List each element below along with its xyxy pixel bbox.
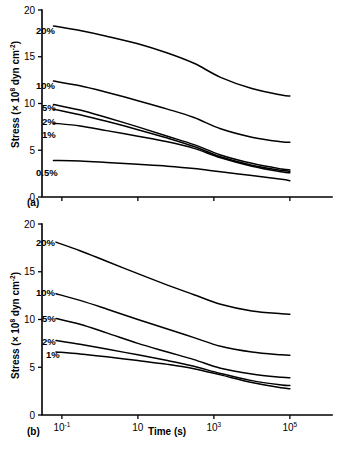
series-curve-5: [56, 319, 290, 378]
panel-a-curve-label-2: 2%: [42, 117, 56, 127]
panel-a-curve-label-5: 5%: [42, 103, 56, 113]
series-curve-2: [56, 341, 290, 386]
panel-a-y-axis-title-mid: dyn cm: [10, 50, 21, 88]
y-tick-label: 20: [24, 219, 36, 230]
panel-b-tag: (b): [27, 427, 40, 437]
panel-a-tag: (a): [27, 198, 39, 208]
panel-a: 05101520 Stress (× 108 dyn cm-2) 20% 10%…: [0, 0, 337, 215]
panel-a-curve-label-0-5: 0.5%: [36, 168, 58, 178]
panel-b-y-axis-title-prefix: Stress (× 10: [10, 323, 21, 379]
panel-b-curve-label-1: 1%: [46, 350, 60, 360]
panel-b-x-axis-title: Time (s): [148, 427, 186, 437]
y-tick-label: 10: [24, 314, 36, 325]
panel-b: 0510152010-110103105 Stress (× 108 dyn c…: [0, 214, 337, 439]
series-curve-20: [53, 26, 289, 96]
panel-b-y-axis-title-exp1: 8: [9, 319, 16, 323]
series-curve-1: [56, 352, 290, 389]
x-tick-label: 105: [282, 421, 297, 433]
panel-a-curve-label-1: 1%: [42, 130, 56, 140]
y-tick-label: 15: [24, 51, 36, 62]
axis-lines: [42, 10, 332, 197]
panel-b-curve-label-10: 10%: [36, 288, 55, 298]
y-tick-label: 20: [24, 5, 36, 16]
panel-b-y-axis-title-exp2: -2: [9, 275, 16, 281]
panel-b-y-axis-title-mid: dyn cm: [10, 281, 21, 319]
panel-b-curve-label-20: 20%: [36, 238, 55, 248]
panel-a-y-axis-title-prefix: Stress (× 10: [10, 92, 21, 148]
y-tick-label: 0: [29, 410, 35, 421]
panel-b-y-axis-title: Stress (× 108 dyn cm-2): [10, 272, 21, 379]
panel-b-curve-label-2: 2%: [42, 337, 56, 347]
panel-a-y-axis-title-suffix: ): [10, 41, 21, 44]
panel-a-curve-label-20: 20%: [36, 26, 55, 36]
y-tick-label: 5: [29, 362, 35, 373]
panel-a-y-axis-title: Stress (× 108 dyn cm-2): [10, 41, 21, 148]
y-tick-label: 5: [29, 145, 35, 156]
panel-b-y-axis-title-suffix: ): [10, 272, 21, 275]
panel-b-curve-label-5: 5%: [42, 314, 56, 324]
y-tick-label: 15: [24, 266, 36, 277]
x-tick-label: 10: [132, 422, 144, 433]
figure-root: 05101520 Stress (× 108 dyn cm-2) 20% 10%…: [0, 0, 337, 454]
x-tick-label: 10-1: [53, 421, 70, 433]
panel-a-y-axis-title-exp1: 8: [9, 88, 16, 92]
panel-a-curve-label-10: 10%: [36, 81, 55, 91]
panel-a-y-axis-title-exp2: -2: [9, 44, 16, 50]
x-tick-label: 103: [206, 421, 221, 433]
y-tick-label: 10: [24, 98, 36, 109]
